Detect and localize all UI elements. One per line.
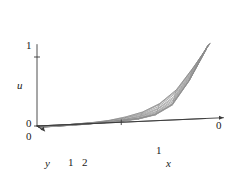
axis-label-x: x [166,158,171,169]
surface-plot-figure: u 1 0 0 y 1 2 1 x 0 [0,0,235,176]
axis-label-y: y [45,158,50,169]
tick-y-1: 1 [68,157,74,168]
tick-x-1: 1 [156,145,162,156]
surface-mesh [37,43,210,128]
tick-u-1: 1 [26,40,32,51]
tick-x-2: 2 [82,157,88,168]
tick-x-0: 0 [216,120,222,131]
surface-plot-canvas [0,0,235,176]
axis-label-u: u [17,80,23,91]
tick-y-0: 0 [26,131,32,142]
tick-u-0: 0 [26,118,32,129]
